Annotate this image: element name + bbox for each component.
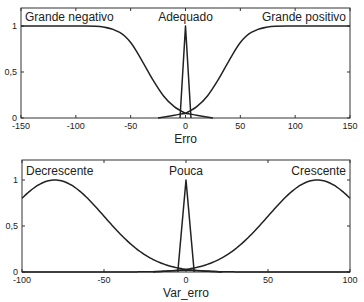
series-grande-positivo — [186, 26, 351, 113]
x-tick-label: 50 — [235, 121, 245, 131]
series-crescente — [22, 180, 350, 272]
x-tick-label: 100 — [342, 275, 357, 285]
y-tick-label: 1 — [12, 21, 17, 31]
series-grande-negativo — [21, 26, 186, 113]
x-tick-label: 0 — [183, 275, 188, 285]
membership-label: Adequado — [158, 10, 213, 24]
x-axis-label: Var_erro — [163, 286, 209, 300]
chart-canvas: -150-100-5005010015000,51ErroGrande nega… — [0, 0, 364, 302]
x-tick-label: 50 — [263, 275, 273, 285]
x-tick-label: 150 — [342, 121, 357, 131]
y-tick-label: 0 — [13, 267, 18, 277]
x-tick-label: 0 — [183, 121, 188, 131]
x-tick-label: 100 — [288, 121, 303, 131]
series-pouca — [178, 180, 194, 272]
plot-frame — [21, 8, 350, 118]
y-tick-label: 0 — [12, 113, 17, 123]
membership-label: Grande positivo — [262, 10, 346, 24]
series-decrescente — [22, 180, 350, 272]
x-tick-label: -50 — [124, 121, 137, 131]
plot-1: -150-100-5005010015000,51ErroGrande nega… — [4, 8, 357, 146]
x-tick-label: -100 — [67, 121, 85, 131]
membership-label: Pouca — [169, 164, 203, 178]
plot-2: -100-5005010000,51Var_erroDecrescentePou… — [5, 160, 357, 300]
y-tick-label: 0,5 — [5, 221, 18, 231]
y-tick-label: 0,5 — [4, 67, 17, 77]
membership-label: Decrescente — [26, 164, 94, 178]
series-adequado — [180, 26, 191, 118]
y-tick-label: 1 — [13, 175, 18, 185]
x-axis-label: Erro — [174, 132, 197, 146]
membership-label: Crescente — [291, 164, 346, 178]
membership-label: Grande negativo — [25, 10, 114, 24]
x-tick-label: -50 — [97, 275, 110, 285]
